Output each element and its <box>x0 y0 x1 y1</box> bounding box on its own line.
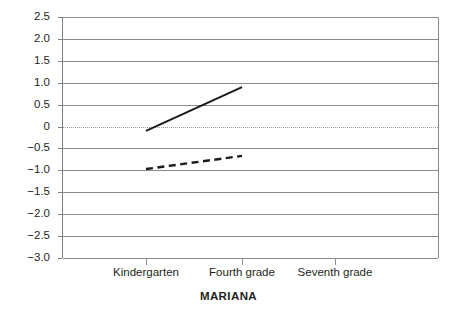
y-axis-tick-label: 1.5 <box>6 55 50 67</box>
gridline <box>63 61 438 62</box>
line-chart: 2.52.01.51.00.50−0.5−1.0−1.5−2.0−2.5−3.0… <box>0 0 457 318</box>
y-axis-tick-label: −1.0 <box>6 165 50 177</box>
y-axis-tick-label: −2.5 <box>6 230 50 242</box>
x-axis-tick <box>242 258 243 265</box>
plot-area <box>62 17 439 258</box>
y-axis-tick-label: −0.5 <box>6 143 50 155</box>
y-axis-tick-label: −2.0 <box>6 208 50 220</box>
x-axis-tick <box>146 258 147 265</box>
y-axis-tick-label: 0.5 <box>6 99 50 111</box>
gridline <box>63 148 438 149</box>
x-axis-tick <box>335 258 336 265</box>
y-axis-tick-label: 2.0 <box>6 33 50 45</box>
gridline <box>63 214 438 215</box>
gridline <box>63 192 438 193</box>
gridline <box>63 83 438 84</box>
y-axis-tick-label: −1.5 <box>6 187 50 199</box>
gridline <box>63 170 438 171</box>
y-axis-tick <box>58 258 62 259</box>
x-axis-tick-label: Kindergarten <box>113 266 179 280</box>
x-axis-tick-label: Fourth grade <box>209 266 275 280</box>
x-axis-tick-label: Seventh grade <box>298 266 373 280</box>
gridline <box>63 258 438 259</box>
gridline <box>63 236 438 237</box>
y-axis-tick-label: −3.0 <box>6 252 50 264</box>
gridline-zero <box>63 127 438 128</box>
y-axis-tick-label: 2.5 <box>6 11 50 23</box>
gridline <box>63 105 438 106</box>
y-axis-tick-label: 1.0 <box>6 77 50 89</box>
gridline <box>63 17 438 18</box>
y-axis-tick-label: 0 <box>6 121 50 133</box>
gridline <box>63 39 438 40</box>
chart-title: MARIANA <box>0 290 457 302</box>
